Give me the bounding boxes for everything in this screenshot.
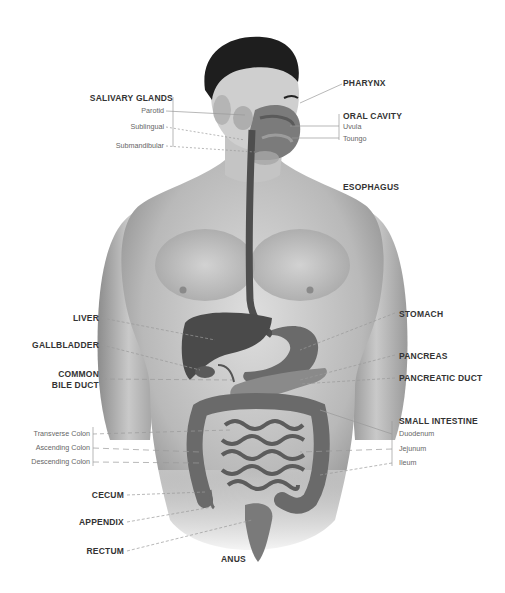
- label-jejunum: Jejunum: [399, 445, 426, 452]
- digestive-system-diagram: SALIVARY GLANDS Parotid Sublingual Subma…: [0, 0, 505, 593]
- ear: [213, 95, 231, 125]
- label-oral-cavity: ORAL CAVITY: [343, 112, 402, 121]
- label-liver: LIVER: [73, 314, 99, 323]
- label-transverse-colon: Transverse Colon: [34, 430, 90, 437]
- label-common-bile-duct-2: BILE DUCT: [52, 381, 99, 390]
- label-salivary-glands: SALIVARY GLANDS: [90, 94, 173, 103]
- label-anus: ANUS: [221, 555, 246, 564]
- nipple-right: [307, 287, 314, 294]
- label-cecum: CECUM: [92, 491, 124, 500]
- label-stomach: STOMACH: [399, 310, 443, 319]
- label-gallbladder: GALLBLADDER: [32, 341, 99, 350]
- label-small-intestine: SMALL INTESTINE: [399, 417, 478, 426]
- submandibular-gland: [251, 151, 279, 165]
- label-pancreatic-duct: PANCREATIC DUCT: [399, 374, 482, 383]
- label-parotid: Parotid: [141, 107, 164, 114]
- parotid-gland: [233, 106, 253, 130]
- label-tongue: Toungo: [343, 135, 367, 142]
- label-pharynx: PHARYNX: [343, 79, 386, 88]
- gallbladder: [195, 366, 215, 378]
- anatomy-illustration: [0, 0, 505, 593]
- label-ileum: Ileum: [399, 459, 417, 466]
- label-ascending-colon: Ascending Colon: [36, 444, 90, 451]
- label-duodenum: Duodenum: [399, 430, 434, 437]
- label-uvula: Uvula: [343, 123, 361, 130]
- nipple-left: [180, 287, 187, 294]
- oral-cavity: [250, 105, 300, 160]
- label-descending-colon: Descending Colon: [31, 458, 90, 465]
- label-pancreas: PANCREAS: [399, 352, 448, 361]
- label-esophagus: ESOPHAGUS: [343, 183, 399, 192]
- label-rectum: RECTUM: [86, 547, 124, 556]
- label-common-bile-duct-1: COMMON: [58, 370, 99, 379]
- label-submandibular: Submandibular: [116, 142, 164, 149]
- label-sublingual: Sublingual: [130, 123, 164, 130]
- label-appendix: APPENDIX: [79, 518, 124, 527]
